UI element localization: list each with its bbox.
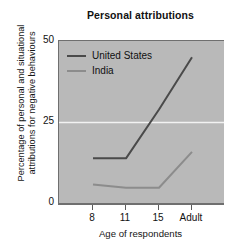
legend-item-india[interactable]: India — [67, 64, 187, 77]
x-tick-mark-adult — [191, 205, 192, 210]
legend-label-india: India — [92, 65, 114, 76]
x-tick-label-adult: Adult — [180, 212, 203, 224]
chart-figure: Personal attributions Percentage of pers… — [0, 0, 229, 250]
x-axis-title: Age of respondents — [58, 228, 223, 239]
chart-legend: United States India — [67, 49, 187, 79]
legend-swatch-india — [67, 70, 86, 72]
y-axis-tick-labels: 50 25 0 — [30, 0, 54, 250]
y-axis-title-line-1: Percentage of personal and situational — [16, 8, 27, 198]
x-tick-mark-11 — [125, 205, 126, 210]
chart-title: Personal attributions — [58, 9, 223, 21]
series-line-india — [93, 152, 192, 188]
legend-item-united-states[interactable]: United States — [67, 49, 187, 62]
plot-area: United States India — [58, 40, 224, 204]
x-tick-label-8: 8 — [89, 212, 95, 224]
x-axis-line — [58, 203, 224, 205]
y-tick-label-0: 0 — [32, 197, 54, 207]
y-tick-label-50: 50 — [32, 35, 54, 45]
x-tick-label-11: 11 — [120, 212, 130, 224]
legend-swatch-united-states — [67, 55, 86, 57]
legend-label-united-states: United States — [92, 50, 152, 61]
x-tick-label-15: 15 — [152, 212, 163, 224]
x-tick-mark-8 — [92, 205, 93, 210]
y-tick-label-25: 25 — [32, 116, 54, 126]
x-tick-mark-15 — [158, 205, 159, 210]
